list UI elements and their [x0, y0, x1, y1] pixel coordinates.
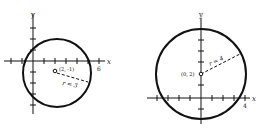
right-diagram: [147, 18, 250, 124]
left-y-label: y: [30, 11, 35, 19]
left-x-label: x: [107, 58, 111, 66]
right-x-tick-label: 4: [243, 102, 247, 109]
center-point: [53, 69, 57, 73]
left-x-tick-label: 6: [97, 65, 101, 72]
left-radius-label: r = 3: [62, 79, 79, 89]
left-center-label: (2, -1): [59, 66, 74, 72]
center-point: [199, 72, 203, 76]
left-diagram: [4, 14, 105, 114]
right-center-label: (0, 2): [181, 71, 194, 77]
right-y-label: y: [198, 11, 203, 19]
diagram-canvas: y x 6 (2, -1) r = 3 y x 4 (0, 2) r = 4: [0, 0, 266, 134]
right-x-label: x: [252, 95, 256, 103]
right-radius-label: r = 4: [207, 54, 224, 67]
